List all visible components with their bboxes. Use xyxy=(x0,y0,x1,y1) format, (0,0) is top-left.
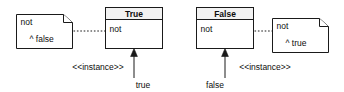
class-box-true-name: True xyxy=(125,9,143,19)
class-box-false-name: False xyxy=(214,9,236,19)
right-instance-arrow-head xyxy=(222,49,229,57)
right-note-line2: ^ true xyxy=(286,38,307,48)
class-box-true: True not xyxy=(106,8,163,49)
diagram-svg: not ^ false True not <<instance>> true xyxy=(0,0,344,92)
class-box-false: False not xyxy=(197,8,254,49)
right-link-stereotype: <<instance>> xyxy=(239,62,291,72)
left-note: not ^ false xyxy=(17,15,73,49)
left-instance-arrow-head xyxy=(131,49,138,57)
left-instance-label: true xyxy=(136,80,151,90)
right-note-line1: not xyxy=(277,21,289,31)
uml-diagram-canvas: not ^ false True not <<instance>> true xyxy=(0,0,344,92)
left-note-line2: ^ false xyxy=(30,34,55,44)
left-link-stereotype: <<instance>> xyxy=(72,62,124,72)
left-instance-arrow xyxy=(131,49,138,79)
class-box-false-feature: not xyxy=(201,24,213,34)
right-instance-arrow xyxy=(222,49,229,79)
left-note-line1: not xyxy=(21,17,33,27)
class-box-true-feature: not xyxy=(110,24,122,34)
right-note: not ^ true xyxy=(273,19,329,53)
right-instance-label: false xyxy=(206,80,224,90)
